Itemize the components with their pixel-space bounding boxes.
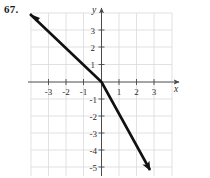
y-tick-label-m1: -1 bbox=[90, 95, 98, 105]
graph-svg: -3 -2 -1 1 2 3 3 2 1 -1 -2 -3 -4 -5 y x bbox=[0, 0, 210, 178]
x-tick-label-m1: -1 bbox=[80, 87, 88, 97]
x-tick-label-1: 1 bbox=[117, 87, 122, 97]
y-tick-label-m3: -3 bbox=[90, 129, 98, 139]
y-tick-label-2: 2 bbox=[91, 43, 96, 53]
x-tick-labels: -3 -2 -1 1 2 3 bbox=[45, 87, 157, 97]
x-tick-label-3: 3 bbox=[152, 87, 157, 97]
x-tick-label-m2: -2 bbox=[62, 87, 70, 97]
y-axis-label: y bbox=[91, 5, 97, 15]
figure-container: 67. bbox=[0, 0, 210, 178]
y-tick-label-1: 1 bbox=[91, 60, 96, 70]
y-tick-label-m4: -4 bbox=[90, 146, 98, 156]
x-axis-label: x bbox=[173, 84, 179, 94]
y-tick-labels: 3 2 1 -1 -2 -3 -4 -5 bbox=[90, 26, 98, 173]
y-tick-label-m5: -5 bbox=[90, 163, 98, 173]
x-tick-label-2: 2 bbox=[134, 87, 139, 97]
y-tick-label-3: 3 bbox=[91, 26, 96, 36]
x-tick-label-m3: -3 bbox=[45, 87, 53, 97]
y-tick-label-m2: -2 bbox=[90, 112, 98, 122]
